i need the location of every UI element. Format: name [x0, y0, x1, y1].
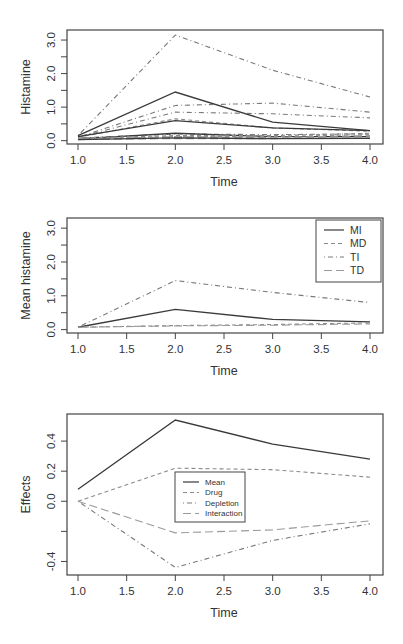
x-tick-label: 4.0 — [362, 154, 378, 166]
y-tick-label: 1.0 — [45, 288, 57, 304]
series-group — [78, 35, 370, 140]
y-tick-label: 3.0 — [45, 32, 57, 48]
x-tick-label: 2.0 — [167, 343, 183, 355]
legend-label: Interaction — [205, 509, 242, 518]
effects-chart: 1.01.52.02.53.03.54.0Time-0.40.00.20.4Ef… — [0, 400, 403, 620]
y-tick-label: 0.0 — [45, 133, 57, 149]
x-tick-label: 1.0 — [70, 154, 86, 166]
x-tick-label: 3.0 — [265, 343, 281, 355]
mean-histamine-chart: 1.01.52.02.53.03.54.0Time0.01.02.03.0Mea… — [0, 200, 403, 400]
x-axis-label: Time — [210, 364, 237, 378]
x-tick-label: 3.0 — [265, 585, 281, 597]
y-tick-label: 0.0 — [45, 493, 57, 509]
legend-label: MD — [350, 237, 367, 249]
legend-label: TI — [350, 251, 359, 263]
chart-svg-bot: 1.01.52.02.53.03.54.0Time-0.40.00.20.4Ef… — [0, 400, 403, 620]
chart-svg-mid: 1.01.52.02.53.03.54.0Time0.01.02.03.0Mea… — [0, 200, 403, 400]
legend-label: Drug — [205, 488, 222, 497]
x-tick-label: 3.5 — [313, 343, 329, 355]
x-tick-label: 1.5 — [119, 343, 135, 355]
y-axis-label: Histamine — [19, 59, 33, 115]
x-tick-label: 1.5 — [119, 154, 135, 166]
x-tick-label: 2.0 — [167, 154, 183, 166]
legend-label: MI — [350, 224, 362, 236]
series-line-ti-subject-2 — [78, 103, 370, 137]
y-tick-label: 0.4 — [45, 432, 57, 449]
y-tick-label: 0.0 — [45, 322, 57, 338]
y-tick-label: 3.0 — [45, 220, 57, 236]
x-tick-label: 2.5 — [216, 154, 232, 166]
legend-box — [316, 220, 381, 282]
legend: MeanDrugDepletionInteraction — [175, 472, 245, 522]
legend-label: Depletion — [205, 499, 239, 508]
x-axis: 1.01.52.02.53.03.54.0 — [70, 575, 378, 597]
legend-label: Mean — [205, 478, 225, 487]
y-axis: -0.40.00.20.4 — [45, 432, 67, 571]
y-axis-label: Effects — [19, 476, 33, 514]
series-line-td — [78, 324, 370, 327]
y-tick-label: 0.2 — [45, 463, 57, 479]
series-line-ti-subject-1 — [78, 35, 370, 136]
y-tick-label: 2.0 — [45, 254, 57, 270]
individual-histamine-chart: 1.01.52.02.53.03.54.0Time0.01.02.03.0His… — [0, 0, 403, 200]
x-tick-label: 3.5 — [313, 154, 329, 166]
y-tick-label: 1.0 — [45, 99, 57, 115]
x-axis-label: Time — [210, 175, 237, 189]
x-axis: 1.01.52.02.53.03.54.0 — [70, 144, 378, 166]
y-axis-label: Mean histamine — [19, 231, 33, 319]
x-tick-label: 3.5 — [313, 585, 329, 597]
x-tick-label: 3.0 — [265, 154, 281, 166]
x-tick-label: 2.5 — [216, 343, 232, 355]
y-axis: 0.01.02.03.0 — [45, 220, 67, 337]
x-tick-label: 2.0 — [167, 585, 183, 597]
series-group — [78, 281, 370, 328]
x-tick-label: 4.0 — [362, 585, 378, 597]
x-axis: 1.01.52.02.53.03.54.0 — [70, 333, 378, 355]
legend: MIMDTITD — [316, 220, 381, 282]
x-tick-label: 1.0 — [70, 585, 86, 597]
chart-svg-top: 1.01.52.02.53.03.54.0Time0.01.02.03.0His… — [0, 0, 403, 200]
x-tick-label: 1.5 — [119, 585, 135, 597]
y-tick-label: -0.4 — [45, 551, 57, 571]
plot-box — [67, 30, 383, 144]
cut-off-caption-fragment — [40, 636, 400, 644]
series-line-mi — [78, 309, 370, 327]
x-tick-label: 4.0 — [362, 343, 378, 355]
y-axis: 0.01.02.03.0 — [45, 32, 67, 149]
legend-label: TD — [350, 264, 364, 276]
x-tick-label: 2.5 — [216, 585, 232, 597]
y-tick-label: 2.0 — [45, 66, 57, 82]
x-tick-label: 1.0 — [70, 343, 86, 355]
x-axis-label: Time — [210, 606, 237, 620]
